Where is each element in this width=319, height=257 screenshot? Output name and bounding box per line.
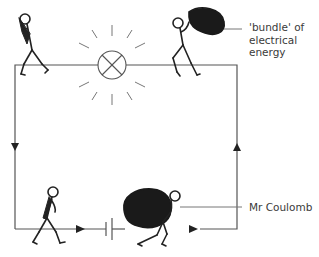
figure-top-right <box>173 8 224 76</box>
arrow-right-icon <box>189 225 198 233</box>
coulomb-label: Mr Coulomb <box>249 201 312 214</box>
figure-top-left <box>19 14 48 75</box>
bundle-label-line3: energy <box>249 46 304 59</box>
lamp-icon <box>98 51 126 79</box>
figure-bottom-left <box>33 187 65 244</box>
bundle-label: 'bundle' of electrical energy <box>249 21 304 59</box>
arrow-down-icon <box>11 143 19 151</box>
bundle-icon <box>189 8 224 34</box>
cell-icon <box>106 218 112 240</box>
bundle-label-line1: 'bundle' of <box>249 21 304 34</box>
bundle-label-line2: electrical <box>249 34 304 47</box>
figure-mr-coulomb <box>124 189 180 246</box>
arrow-up-icon <box>233 143 241 151</box>
arrow-right-icon <box>76 225 85 233</box>
